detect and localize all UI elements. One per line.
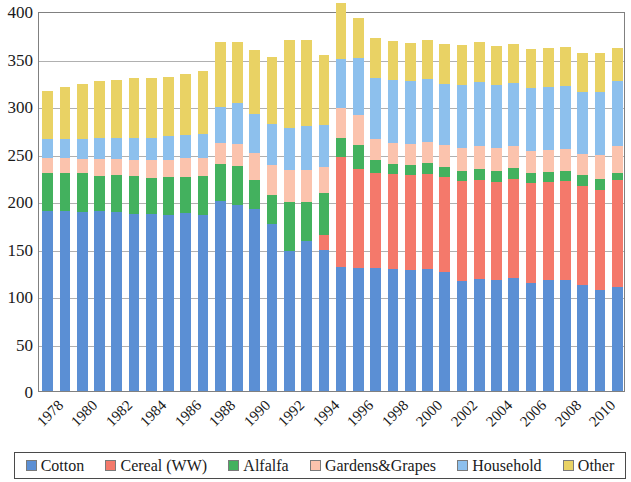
bar-segment-cotton xyxy=(543,280,554,391)
bar-segment-alfalfa xyxy=(439,167,450,177)
bar-segment-alfalfa xyxy=(284,202,295,251)
bar-2002 xyxy=(457,45,468,391)
bar-segment-household xyxy=(77,139,88,159)
bar-segment-alfalfa xyxy=(422,163,433,174)
bar-segment-cotton xyxy=(267,224,278,391)
bar-segment-cereal-ww xyxy=(612,180,623,286)
bar-segment-alfalfa xyxy=(129,176,140,214)
bar-1988 xyxy=(215,42,226,391)
y-axis: 400350300250200150100500 xyxy=(0,0,33,400)
bar-segment-alfalfa xyxy=(60,173,71,210)
bar-1994 xyxy=(319,55,330,391)
bar-segment-other xyxy=(457,45,468,85)
y-axis-tick-label: 350 xyxy=(8,51,34,68)
bar-1997 xyxy=(370,38,381,391)
bar-segment-other xyxy=(543,48,554,87)
bar-1993 xyxy=(301,40,312,391)
bar-segment-alfalfa xyxy=(336,138,347,157)
legend-item-gardens-grapes[interactable]: Gardens&Grapes xyxy=(310,457,436,475)
bar-segment-household xyxy=(198,134,209,159)
bar-segment-household xyxy=(42,139,53,158)
legend-item-cotton[interactable]: Cotton xyxy=(26,457,85,475)
bar-segment-household xyxy=(301,126,312,170)
bar-segment-alfalfa xyxy=(612,173,623,181)
bar-2004 xyxy=(491,46,502,391)
legend-item-other[interactable]: Other xyxy=(563,457,614,475)
bar-segment-gardens-grapes xyxy=(60,158,71,173)
bar-segment-other xyxy=(77,84,88,139)
legend-swatch-icon xyxy=(105,460,116,471)
bar-segment-cotton xyxy=(457,281,468,391)
bar-segment-alfalfa xyxy=(457,171,468,181)
bar-segment-cereal-ww xyxy=(457,181,468,281)
bar-segment-other xyxy=(491,46,502,85)
bar-1983 xyxy=(129,78,140,391)
bar-segment-other xyxy=(474,42,485,82)
bar-1981 xyxy=(94,81,105,391)
bar-segment-cereal-ww xyxy=(422,174,433,269)
bar-segment-gardens-grapes xyxy=(457,148,468,171)
bar-segment-cotton xyxy=(301,241,312,391)
bar-1989 xyxy=(232,42,243,391)
bar-1980 xyxy=(77,84,88,391)
bar-segment-household xyxy=(526,88,537,151)
bar-segment-other xyxy=(388,41,399,80)
bar-segment-household xyxy=(577,92,588,155)
bar-segment-cereal-ww xyxy=(439,177,450,272)
bar-segment-alfalfa xyxy=(94,176,105,211)
x-axis-tick-label: 1988 xyxy=(206,397,239,430)
x-axis-tick-label: 2008 xyxy=(551,397,584,430)
bar-segment-alfalfa xyxy=(474,169,485,180)
legend-swatch-icon xyxy=(228,460,239,471)
bar-segment-other xyxy=(267,57,278,124)
bar-segment-household xyxy=(474,82,485,146)
legend-item-household[interactable]: Household xyxy=(457,457,541,475)
bar-1978 xyxy=(42,91,53,391)
y-axis-tick-label: 250 xyxy=(8,146,34,163)
bar-segment-household xyxy=(129,138,140,160)
bar-segment-gardens-grapes xyxy=(370,139,381,160)
stacked-bar-chart: 400350300250200150100500 197819801982198… xyxy=(0,0,631,482)
bar-segment-gardens-grapes xyxy=(198,158,209,176)
legend-item-alfalfa[interactable]: Alfalfa xyxy=(228,457,288,475)
bar-2007 xyxy=(543,48,554,391)
y-axis-tick-label: 400 xyxy=(8,4,34,21)
bar-segment-gardens-grapes xyxy=(422,142,433,163)
bar-segment-gardens-grapes xyxy=(405,144,416,165)
bar-segment-cereal-ww xyxy=(577,186,588,285)
bar-segment-alfalfa xyxy=(543,172,554,182)
bar-segment-alfalfa xyxy=(370,160,381,172)
bar-segment-alfalfa xyxy=(301,202,312,241)
bar-segment-gardens-grapes xyxy=(94,159,105,176)
bar-segment-cotton xyxy=(94,211,105,391)
bar-segment-cotton xyxy=(508,278,519,391)
x-axis-tick-label: 1992 xyxy=(275,397,308,430)
bar-segment-gardens-grapes xyxy=(439,145,450,167)
bar-segment-alfalfa xyxy=(388,164,399,174)
bar-segment-household xyxy=(249,114,260,153)
bar-segment-alfalfa xyxy=(560,171,571,181)
x-axis-tick-label: 2006 xyxy=(517,397,550,430)
bar-segment-cereal-ww xyxy=(595,190,606,291)
bar-segment-gardens-grapes xyxy=(319,167,330,194)
bar-segment-other xyxy=(560,47,571,86)
bar-1979 xyxy=(60,87,71,391)
bar-segment-gardens-grapes xyxy=(249,153,260,181)
bar-segment-cotton xyxy=(111,212,122,391)
bar-segment-other xyxy=(370,38,381,78)
bar-segment-gardens-grapes xyxy=(301,170,312,202)
bar-1986 xyxy=(180,74,191,391)
bar-segment-alfalfa xyxy=(405,165,416,175)
bar-segment-cereal-ww xyxy=(370,173,381,268)
bar-1987 xyxy=(198,71,209,391)
bar-segment-cereal-ww xyxy=(560,181,571,280)
bar-1992 xyxy=(284,40,295,391)
bar-segment-cotton xyxy=(232,205,243,391)
bar-segment-cotton xyxy=(560,280,571,391)
bar-segment-gardens-grapes xyxy=(215,143,226,164)
bar-segment-cotton xyxy=(60,211,71,392)
bar-segment-household xyxy=(370,78,381,140)
legend-item-cereal-ww[interactable]: Cereal (WW) xyxy=(105,457,207,475)
bar-segment-cereal-ww xyxy=(474,180,485,279)
bar-segment-household xyxy=(180,135,191,159)
